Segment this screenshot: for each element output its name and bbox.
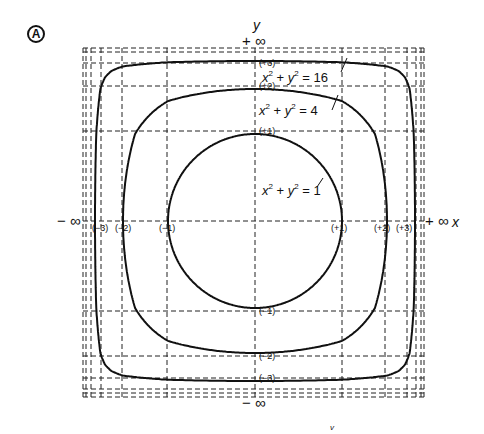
y-tick-label: (+3) bbox=[259, 59, 275, 68]
leader-4 bbox=[332, 95, 338, 110]
eq-exp: 2 bbox=[269, 69, 273, 78]
y-tick-label: (−2) bbox=[259, 352, 275, 361]
y-tick-label: (−1) bbox=[259, 307, 275, 316]
y-tick-label: (+1) bbox=[259, 127, 275, 136]
dashed-grid bbox=[83, 48, 424, 397]
eq-rhs: 1 bbox=[314, 183, 321, 198]
y-pos-infinity-label: + ∞ bbox=[242, 33, 266, 48]
x-tick-label: (−2) bbox=[115, 224, 131, 233]
y-neg-infinity-label: − ∞ bbox=[242, 395, 266, 410]
eq-rhs: 16 bbox=[314, 70, 328, 85]
x-tick-label: (+3) bbox=[396, 224, 412, 233]
eq-rhs: 4 bbox=[311, 103, 318, 118]
x-pos-infinity-label: + ∞ bbox=[425, 213, 449, 228]
eq-var-x: x bbox=[262, 70, 269, 85]
equation-label-r4: x2 + y2 = 16 bbox=[262, 71, 328, 84]
eq-exp: 2 bbox=[266, 102, 270, 111]
y-tick-label: (−3) bbox=[259, 374, 275, 383]
eq-exp: 2 bbox=[294, 69, 298, 78]
eq-exp: 2 bbox=[291, 102, 295, 111]
x-tick-label: (+2) bbox=[374, 224, 390, 233]
eq-var-x: x bbox=[259, 103, 266, 118]
equation-label-r1: x2 + y2 = 1 bbox=[262, 184, 321, 197]
x-axis-label: x bbox=[452, 215, 459, 229]
equation-label-r2: x2 + y2 = 4 bbox=[259, 104, 318, 117]
eq-var-x: x bbox=[262, 183, 269, 198]
x-tick-label: (−1) bbox=[159, 224, 175, 233]
x-tick-label: (+1) bbox=[331, 224, 347, 233]
x-tick-label: (−3) bbox=[92, 224, 108, 233]
x-neg-infinity-label: − ∞ bbox=[57, 213, 81, 228]
y-axis-label: y bbox=[253, 18, 260, 32]
stray-mark: v bbox=[330, 424, 334, 432]
eq-exp: 2 bbox=[294, 182, 298, 191]
eq-exp: 2 bbox=[269, 182, 273, 191]
